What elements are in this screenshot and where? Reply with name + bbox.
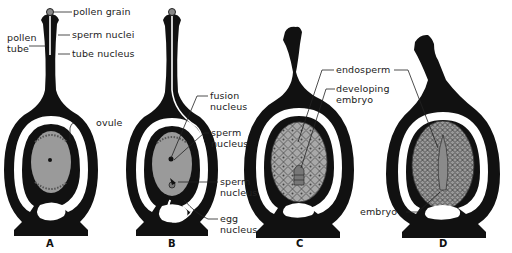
label-ovule: ovule xyxy=(96,118,122,128)
panel-letter-d: D xyxy=(439,238,447,249)
label-fusion-nucleus-line2: nucleus xyxy=(210,102,247,112)
label-sperm-nuclei: sperm nuclei xyxy=(72,30,134,40)
label-pollen-grain: pollen grain xyxy=(73,7,131,17)
label-developing-embryo-line2: embryo xyxy=(336,95,373,105)
label-sperm-nucleus-lower-line2: nucleus xyxy=(220,188,257,198)
label-egg-nucleus-line2: nucleus xyxy=(220,225,257,235)
label-sperm-nucleus-upper-line1: sperm xyxy=(211,128,241,138)
label-developing-embryo-line1: developing xyxy=(336,84,390,94)
label-pollen-tube-line1: pollen xyxy=(7,33,37,43)
polar-nucleus-a xyxy=(48,158,52,162)
label-sperm-nucleus-lower-line1: sperm xyxy=(220,177,250,187)
panel-c xyxy=(244,27,354,238)
panel-letter-b: B xyxy=(168,238,176,249)
panel-letter-c: C xyxy=(296,238,303,249)
panel-b xyxy=(126,9,218,237)
pollen-grain-b xyxy=(169,9,176,16)
label-sperm-nucleus-upper-line2: nucleus xyxy=(211,139,248,149)
label-tube-nucleus: tube nucleus xyxy=(72,49,135,59)
panel-letter-a: A xyxy=(46,238,54,249)
label-fusion-nucleus-line1: fusion xyxy=(210,91,239,101)
label-embryo: embryo xyxy=(360,207,397,217)
endosperm-c xyxy=(271,122,327,202)
pollen-grain-a xyxy=(47,9,54,16)
label-egg-nucleus-line1: egg xyxy=(220,214,238,224)
panel-d xyxy=(386,35,500,238)
label-endosperm: endosperm xyxy=(336,65,390,75)
label-pollen-tube-line2: tube xyxy=(7,44,29,54)
